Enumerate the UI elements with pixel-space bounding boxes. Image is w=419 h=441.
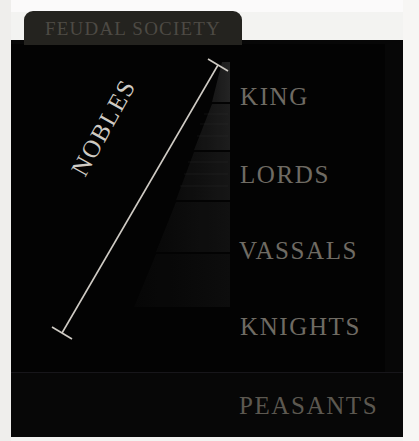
rank-label-knights: KNIGHTS bbox=[240, 313, 361, 341]
rank-label-vassals: VASSALS bbox=[239, 237, 358, 265]
band-divider bbox=[11, 372, 403, 373]
rank-label-lords: LORDS bbox=[240, 161, 330, 189]
nobles-bracket bbox=[40, 50, 240, 360]
title-tab: FEUDAL SOCIETY bbox=[24, 11, 242, 45]
rank-label-king: KING bbox=[240, 83, 309, 111]
paper-left-edge bbox=[0, 0, 11, 441]
rank-label-peasants: PEASANTS bbox=[239, 392, 378, 420]
feudal-society-diagram: FEUDAL SOCIETY bbox=[0, 0, 419, 441]
page-title: FEUDAL SOCIETY bbox=[24, 18, 242, 40]
paper-right-edge bbox=[403, 0, 419, 441]
